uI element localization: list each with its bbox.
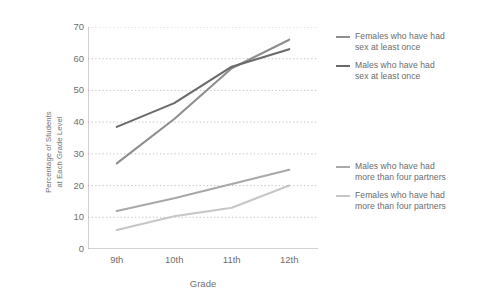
chart-figure: Percentage of Students at Each Grade Lev… [0,0,491,305]
legend-item: Females who have had more than four part… [336,190,446,212]
x-tick-label: 10th [154,254,194,266]
legend-group-bottom: Males who have had more than four partne… [336,161,446,219]
y-tick-label: 60 [58,54,84,64]
y-tick-label: 30 [58,149,84,159]
legend-item-label: Females who have had more than four part… [355,190,446,212]
y-tick-label: 40 [58,117,84,127]
legend-item: Males who have had sex at least once [336,60,445,82]
legend-group-top: Females who have had sex at least once M… [336,31,445,89]
y-tick-label: 20 [58,181,84,191]
y-tick-label: 0 [58,244,84,254]
x-tick-label: 9th [97,254,137,266]
y-tick-label: 70 [58,22,84,32]
x-tick-label: 11th [212,254,252,266]
y-axis-tick-labels: 010203040506070 [52,27,84,249]
x-axis-title: Grade [88,278,318,289]
series-line [117,186,290,230]
x-tick-label: 12th [269,254,309,266]
y-tick-label: 10 [58,212,84,222]
plot-area [88,27,318,249]
legend-item-label: Males who have had sex at least once [355,60,435,82]
legend-item-label: Females who have had sex at least once [355,31,445,53]
legend-line-swatch-icon [336,65,350,67]
x-axis-tick-labels: 9th10th11th12th [88,254,318,268]
axis-lines [88,27,318,249]
legend-item: Males who have had more than four partne… [336,161,446,183]
series-line [117,170,290,211]
legend-item-label: Males who have had more than four partne… [355,161,446,183]
series-line [117,49,290,127]
legend-item: Females who have had sex at least once [336,31,445,53]
y-tick-label: 50 [58,85,84,95]
series-line [117,40,290,164]
data-series-lines [117,40,290,230]
y-axis-title: Percentage of Students at Each Grade Lev… [22,62,46,242]
legend-line-swatch-icon [336,36,350,38]
legend-line-swatch-icon [336,166,350,168]
legend-line-swatch-icon [336,195,350,197]
chart-svg [88,27,318,249]
